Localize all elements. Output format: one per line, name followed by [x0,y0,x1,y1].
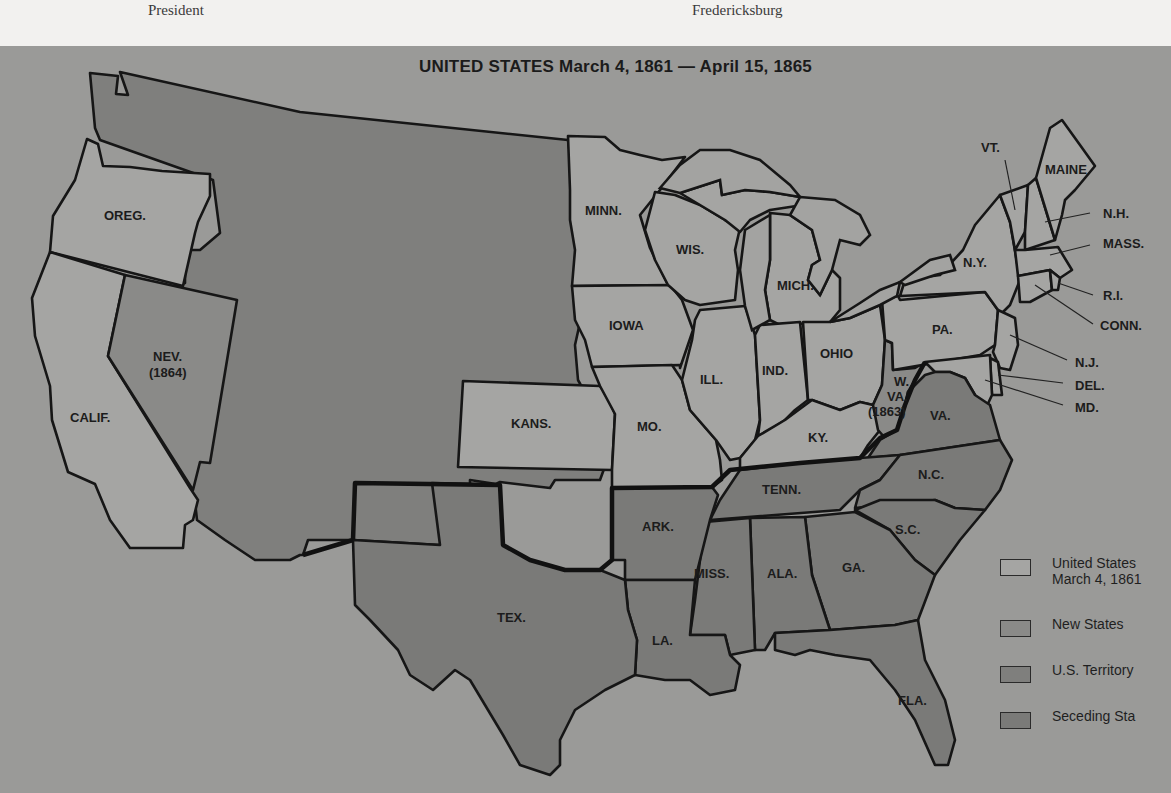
label-minnesota: MINN. [585,203,622,218]
label-vermont: VT. [981,140,1000,155]
legend-item-us-territory: U.S. Territory [1000,662,1133,683]
label-virginia: VA. [930,408,951,423]
label-oregon: OREG. [104,208,146,223]
legend-swatch-united-states [1000,559,1031,576]
label-nevada: NEV. [153,349,182,364]
legend-item-united-states-1861: United States March 4, 1861 [1000,555,1142,587]
label-tennessee: TENN. [762,482,801,497]
state-connecticut [1018,270,1052,302]
legend-item-new-states: New States [1000,616,1124,637]
label-wisconsin: WIS. [676,242,704,257]
label-new-jersey: N.J. [1075,355,1099,370]
leader-ri [1058,283,1093,295]
label-kansas: KANS. [511,416,551,431]
us-map [0,0,1171,793]
label-california: CALIF. [70,410,110,425]
leader-conn [1035,285,1093,324]
label-illinois: ILL. [700,372,723,387]
label-west-virginia-2: VA. [887,389,908,404]
legend-label-line2: March 4, 1861 [1052,571,1142,587]
legend-swatch-seceding-states [1000,712,1031,729]
label-louisiana: LA. [652,633,673,648]
legend-label: U.S. Territory [1052,662,1133,678]
legend-swatch-new-states [1000,620,1031,637]
label-georgia: GA. [842,560,865,575]
label-arkansas: ARK. [642,519,674,534]
label-iowa: IOWA [609,318,644,333]
label-pennsylvania: PA. [932,322,953,337]
label-west-virginia-year: (1863) [868,404,906,419]
label-delaware: DEL. [1075,378,1105,393]
label-texas: TEX. [497,610,526,625]
map-title: UNITED STATES March 4, 1861 — April 15, … [0,57,1171,77]
state-florida [775,620,955,765]
label-ohio: OHIO [820,346,853,361]
label-new-hampshire: N.H. [1103,206,1129,221]
leader-del [998,375,1063,383]
label-nevada-year: (1864) [149,365,187,380]
legend-swatch-us-territory [1000,666,1031,683]
label-alabama: ALA. [767,566,797,581]
label-michigan: MICH. [777,278,814,293]
label-indiana: IND. [762,363,788,378]
legend-label: Seceding Sta [1052,708,1135,724]
legend-item-seceding-states: Seceding Sta [1000,708,1135,729]
label-maine: MAINE [1045,162,1087,177]
label-mississippi: MISS. [694,566,729,581]
legend-label: New States [1052,616,1124,632]
label-connecticut: CONN. [1100,318,1142,333]
label-south-carolina: S.C. [895,522,920,537]
label-missouri: MO. [637,419,662,434]
label-west-virginia-1: W. [894,374,909,389]
legend-label: United States [1052,555,1142,571]
label-florida: FLA. [898,693,927,708]
label-new-york: N.Y. [963,255,987,270]
label-maryland: MD. [1075,400,1099,415]
label-massachusetts: MASS. [1103,236,1144,251]
label-north-carolina: N.C. [918,467,944,482]
label-kentucky: KY. [808,430,828,445]
label-rhode-island: R.I. [1103,288,1123,303]
